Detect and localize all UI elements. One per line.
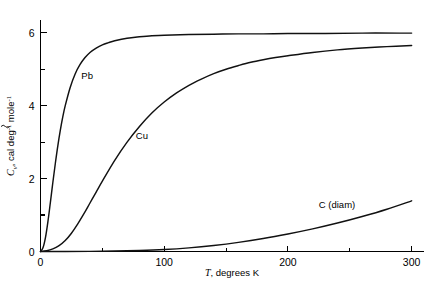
svg-text:Cv, cal deg-1 mole-1: Cv, cal deg-1 mole-1 (5, 96, 19, 176)
y-tick-label: 2 (29, 173, 35, 185)
y-tick-label: 0 (29, 246, 35, 258)
x-tick-label: 200 (279, 256, 297, 268)
svg-text:T, degrees K: T, degrees K (205, 267, 260, 278)
y-axis-title-rest: , cal deg (5, 130, 16, 166)
series-label-copper: Cu (136, 130, 148, 141)
x-axis-title-rest: , degrees K (210, 267, 259, 278)
x-tick-label: 300 (403, 256, 421, 268)
y-axis-tick-labels: 0246 (29, 27, 35, 258)
y-axis-title: Cv, cal deg-1 mole-1 (1, 96, 19, 176)
y-tick-label: 4 (29, 100, 35, 112)
y-axis-title-mid: mole (5, 102, 16, 125)
x-tick-label: 100 (155, 256, 173, 268)
series-annotations: Pb Cu C (diam) (81, 70, 355, 209)
y-tick-label: 6 (29, 27, 35, 39)
chart-figure: 0100200300 0246 Pb Cu C (diam) T, degree… (0, 0, 431, 285)
curve-diamond (41, 201, 412, 252)
plot-area: 0100200300 0246 Pb Cu C (diam) T, degree… (0, 0, 431, 285)
x-axis-tick-labels: 0100200300 (38, 256, 421, 268)
y-axis-title-exponent-2: -1 (5, 96, 12, 102)
series-label-lead: Pb (81, 70, 93, 81)
curve-copper (41, 46, 412, 252)
x-tick-label: 0 (38, 256, 44, 268)
y-axis-ticks (41, 33, 47, 252)
series-label-diamond: C (diam) (319, 199, 355, 210)
x-axis-title: T, degrees K (205, 267, 260, 278)
axis-lines (40, 20, 424, 252)
data-curves (41, 33, 412, 251)
